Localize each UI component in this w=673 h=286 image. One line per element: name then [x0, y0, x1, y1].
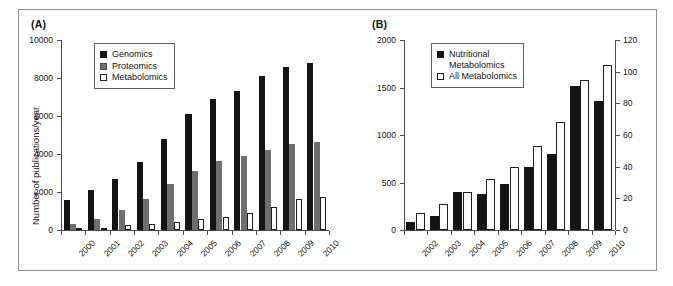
bar-2000-proteomics — [70, 224, 76, 230]
legend-item-label: Genomics — [112, 49, 153, 60]
x-tick — [256, 231, 257, 235]
x-tick-label: 2009 — [583, 238, 603, 258]
y-tick — [400, 183, 404, 184]
y-tick-right-label: 40 — [623, 162, 653, 172]
x-tick-label: 2008 — [560, 238, 580, 258]
y-axis-line — [61, 40, 62, 230]
x-tick — [280, 231, 281, 235]
bar-2009-all-metabolomics — [580, 80, 589, 230]
panel-a: (A) Number of publications/year 02000400… — [0, 0, 345, 286]
legend-swatch-gray-icon — [100, 63, 107, 70]
bar-2010-metabolomics — [320, 197, 326, 230]
y-tick-right — [616, 72, 620, 73]
legend-item: Metabolomics — [100, 72, 168, 83]
bar-2008-proteomics — [265, 150, 271, 230]
bar-2008-genomics — [259, 76, 265, 230]
bar-2008-nutritional-metabolomics — [547, 154, 556, 230]
y-tick-label: 1500 — [362, 83, 396, 93]
x-tick-label: 2002 — [125, 238, 145, 258]
x-tick — [110, 231, 111, 235]
bar-2005-all-metabolomics — [486, 179, 495, 230]
y-tick-right — [616, 230, 620, 231]
bar-2006-all-metabolomics — [510, 167, 519, 230]
bar-2010-genomics — [307, 63, 313, 230]
panel-b-label: (B) — [372, 18, 387, 30]
bar-2003-genomics — [137, 162, 143, 230]
y-tick — [57, 40, 61, 41]
panel-b: (B) 050010001500200002040608010012020022… — [345, 0, 673, 286]
bar-2005-genomics — [185, 114, 191, 230]
x-tick — [474, 231, 475, 235]
x-tick — [158, 231, 159, 235]
bar-2004-genomics — [161, 139, 167, 230]
x-tick — [404, 231, 405, 235]
y-tick — [400, 88, 404, 89]
y-tick-right-label: 100 — [623, 67, 653, 77]
x-tick-label: 2003 — [150, 238, 170, 258]
x-tick-label: 2008 — [272, 238, 292, 258]
bar-2007-proteomics — [241, 156, 247, 230]
panel-a-label: (A) — [31, 18, 46, 30]
y-tick-label: 0 — [362, 225, 396, 235]
y-tick-right — [616, 103, 620, 104]
x-tick — [85, 231, 86, 235]
x-tick — [305, 231, 306, 235]
bar-2004-all-metabolomics — [463, 192, 472, 230]
x-tick-label: 2005 — [199, 238, 219, 258]
bar-2010-proteomics — [314, 142, 320, 230]
x-axis-line — [61, 230, 329, 231]
x-tick — [521, 231, 522, 235]
x-tick — [134, 231, 135, 235]
bar-2008-metabolomics — [271, 207, 277, 230]
panel-b-plot-area: 0500100015002000020406080100120200220032… — [404, 40, 615, 230]
legend-item: Genomics — [100, 49, 168, 60]
x-tick-label: 2007 — [247, 238, 267, 258]
bar-2004-nutritional-metabolomics — [453, 192, 462, 230]
y-tick — [57, 154, 61, 155]
figure-container: (A) Number of publications/year 02000400… — [0, 0, 673, 286]
y-tick-label: 8000 — [19, 73, 53, 83]
x-tick — [592, 231, 593, 235]
y-tick-right — [616, 40, 620, 41]
legend-swatch-white-icon — [437, 73, 444, 80]
x-tick — [451, 231, 452, 235]
y-tick-right — [616, 135, 620, 136]
legend-swatch-white-icon — [100, 74, 107, 81]
legend: Nutritional MetabolomicsAll Metabolomics — [431, 43, 524, 88]
bar-2002-proteomics — [119, 210, 125, 230]
bar-2005-nutritional-metabolomics — [477, 194, 486, 230]
y-tick-right — [616, 198, 620, 199]
x-tick-label: 2010 — [320, 238, 340, 258]
bar-2002-genomics — [112, 179, 118, 230]
bar-2005-metabolomics — [198, 219, 204, 230]
y-tick-right-label: 80 — [623, 98, 653, 108]
y-tick-right-label: 120 — [623, 35, 653, 45]
x-tick-label: 2006 — [513, 238, 533, 258]
bar-2004-metabolomics — [174, 222, 180, 230]
x-tick — [232, 231, 233, 235]
x-tick-label: 2006 — [223, 238, 243, 258]
bar-2001-proteomics — [94, 219, 100, 230]
y-tick — [400, 135, 404, 136]
bar-2006-genomics — [210, 99, 216, 230]
bar-2002-metabolomics — [125, 225, 131, 230]
x-tick-label: 2005 — [490, 238, 510, 258]
legend-item: Nutritional Metabolomics — [437, 49, 517, 70]
y-tick-right-label: 20 — [623, 193, 653, 203]
bar-2006-metabolomics — [223, 217, 229, 230]
x-tick — [498, 231, 499, 235]
x-tick-label: 2009 — [296, 238, 316, 258]
y-tick-label: 2000 — [19, 187, 53, 197]
bar-2007-all-metabolomics — [533, 146, 542, 230]
x-tick-label: 2003 — [443, 238, 463, 258]
bar-2006-nutritional-metabolomics — [500, 184, 509, 230]
y-tick — [57, 192, 61, 193]
panel-a-y-axis-title: Number of publications/year — [30, 107, 41, 225]
y-tick-label: 6000 — [19, 111, 53, 121]
bar-2001-genomics — [88, 190, 94, 230]
legend-swatch-black-icon — [100, 51, 107, 58]
bar-2007-metabolomics — [247, 213, 253, 230]
x-tick-label: 2004 — [466, 238, 486, 258]
x-tick — [329, 231, 330, 235]
bar-2003-metabolomics — [149, 224, 155, 230]
